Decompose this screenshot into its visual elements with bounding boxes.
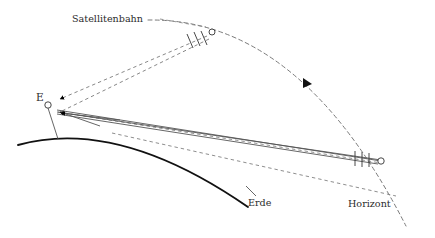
- label-horizont: Horizont: [348, 198, 391, 209]
- label-erde: Erde: [248, 197, 272, 208]
- label-satellitenbahn: Satellitenbahn: [72, 13, 143, 24]
- horizon-point-marker[interactable]: [378, 158, 384, 164]
- satellite-orbit-diagram: Satellitenbahn E Erde Horizont: [0, 0, 435, 238]
- observer-point-marker[interactable]: [45, 102, 51, 108]
- label-observer-e: E: [36, 91, 44, 103]
- satellite-point-marker[interactable]: [209, 29, 215, 35]
